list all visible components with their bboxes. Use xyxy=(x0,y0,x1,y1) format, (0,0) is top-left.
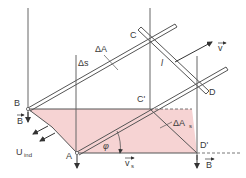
label-d-prime: D' xyxy=(200,140,208,150)
point-b-marker xyxy=(26,107,29,110)
label-delta-a: ΔA xyxy=(95,44,107,54)
u-ind-arrow-2 xyxy=(40,133,55,141)
rail-lower-cap xyxy=(226,67,228,70)
sliding-rod[interactable] xyxy=(138,30,206,94)
induction-diagram: C ΔA Δs l v D C' B B ΔA s φ D' A U ind v… xyxy=(0,0,246,178)
label-b: B xyxy=(14,98,20,108)
point-a-marker xyxy=(75,151,78,154)
label-d: D xyxy=(209,87,216,97)
rail-upper xyxy=(28,24,175,108)
label-u-ind: U xyxy=(16,147,23,157)
u-ind-arrow-1 xyxy=(33,126,48,134)
label-delta-s: Δs xyxy=(78,58,89,68)
rail-upper-cap xyxy=(175,24,177,27)
label-a: A xyxy=(66,151,72,161)
label-c: C xyxy=(130,30,137,40)
label-delta-as: ΔA xyxy=(173,118,185,128)
label-vs: v xyxy=(125,158,130,168)
sliding-rod-inner xyxy=(141,27,209,91)
label-b-field-right: B xyxy=(206,160,212,170)
label-b-field-left: B xyxy=(17,116,23,126)
label-u-ind-sub: ind xyxy=(24,152,32,158)
sliding-rod-cap-top xyxy=(138,27,141,30)
label-phi: φ xyxy=(103,141,109,151)
label-delta-as-sub: s xyxy=(189,123,192,129)
label-l: l xyxy=(161,58,164,68)
label-vs-sub: s xyxy=(131,163,134,169)
label-c-prime: C' xyxy=(137,94,145,104)
label-v: v xyxy=(218,43,223,53)
velocity-arrow xyxy=(175,42,212,62)
projected-area-fill xyxy=(28,109,197,153)
